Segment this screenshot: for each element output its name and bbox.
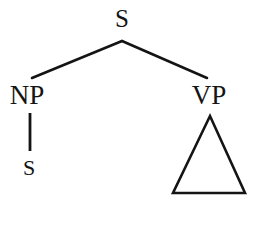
edge-root-to-vp — [122, 41, 207, 78]
syntax-tree-figure: S NP VP S — [0, 0, 270, 232]
node-label-root-s: S — [115, 6, 129, 31]
vp-triangle-icon — [173, 116, 245, 193]
node-label-np: NP — [10, 82, 45, 109]
node-label-np-child-s: S — [23, 157, 35, 179]
tree-canvas — [0, 0, 270, 232]
edge-root-to-np — [32, 41, 122, 78]
node-label-vp: VP — [192, 82, 227, 109]
